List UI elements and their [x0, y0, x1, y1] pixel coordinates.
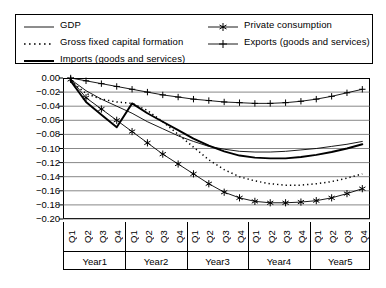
x-axis-quarter-cell: Q1 — [248, 222, 263, 252]
legend-item-exports-goods-and-services[interactable]: Exports (goods and services) — [206, 34, 370, 49]
year-divider — [310, 222, 311, 252]
legend-column-right: Private consumptionExports (goods and se… — [206, 15, 370, 49]
x-axis-year-band: Year1Year2Year3Year4Year5 — [63, 252, 370, 270]
plus-marker-icon — [344, 90, 350, 96]
series-line — [71, 81, 363, 185]
x-axis-quarter-cell: Q4 — [233, 222, 248, 252]
x-axis-quarter-label: Q4 — [235, 230, 246, 243]
x-axis-quarter-label: Q2 — [266, 230, 277, 243]
x-axis-quarter-label: Q2 — [82, 230, 93, 243]
series-gdp — [71, 79, 363, 152]
x-axis-quarter-cell: Q1 — [64, 222, 79, 252]
x-axis-quarter-cell: Q1 — [125, 222, 140, 252]
x-axis-quarter-label: Q4 — [296, 230, 307, 243]
legend-label: Gross fixed capital formation — [56, 36, 183, 48]
x-axis-quarter-label: Q4 — [174, 230, 185, 243]
x-axis-quarter-label: Q1 — [66, 230, 77, 243]
plus-marker-icon — [190, 96, 196, 102]
x-axis-quarter-label: Q3 — [97, 230, 108, 243]
x-axis-quarter-label: Q1 — [312, 230, 323, 243]
year-divider — [125, 222, 126, 252]
asterisk-marker-icon — [221, 189, 227, 196]
y-axis-tick-label: −0.04 — [2, 101, 60, 111]
year-divider — [187, 222, 188, 252]
x-axis-quarter-cell: Q4 — [294, 222, 309, 252]
y-axis-tick-label: −0.18 — [2, 200, 60, 210]
x-axis-quarter-label: Q3 — [220, 230, 231, 243]
asterisk-marker-icon — [206, 180, 212, 187]
asterisk-marker-icon — [359, 185, 365, 192]
y-axis-tick-label: −0.14 — [2, 172, 60, 182]
x-axis-year-label: Year2 — [125, 252, 186, 270]
plus-marker-icon — [160, 92, 166, 98]
y-axis-tick-label: −0.12 — [2, 158, 60, 168]
x-axis-quarter-label: Q1 — [250, 230, 261, 243]
x-axis-year-label: Year5 — [310, 252, 371, 270]
plus-marker-icon — [267, 100, 273, 106]
x-axis-quarter-label: Q1 — [189, 230, 200, 243]
x-axis-year-label: Year4 — [248, 252, 309, 270]
legend-swatch-asterisk-marker-icon — [206, 19, 240, 31]
x-axis-quarter-label: Q3 — [158, 230, 169, 243]
x-axis-quarter-label: Q2 — [143, 230, 154, 243]
x-axis-quarter-cell: Q3 — [279, 222, 294, 252]
x-axis-quarter-cell: Q4 — [171, 222, 186, 252]
x-axis-quarter-cell: Q3 — [340, 222, 355, 252]
asterisk-marker-icon — [144, 139, 150, 146]
plus-marker-icon — [221, 99, 227, 105]
x-axis-quarter-cell: Q3 — [218, 222, 233, 252]
asterisk-marker-icon — [236, 194, 242, 201]
series-line — [71, 79, 363, 152]
y-axis-tick-label: −0.16 — [2, 186, 60, 196]
year-divider — [248, 222, 249, 252]
asterisk-marker-icon — [175, 160, 181, 167]
y-axis-labels: 0.00−0.02−0.04−0.06−0.08−0.10−0.12−0.14−… — [0, 0, 60, 288]
x-axis-quarter-label: Q4 — [358, 230, 369, 243]
chart-page: GDPGross fixed capital formationImports … — [0, 0, 386, 288]
plus-marker-icon — [313, 96, 319, 102]
x-axis-quarter-label: Q4 — [112, 230, 123, 243]
x-axis-quarter-label: Q3 — [342, 230, 353, 243]
plus-marker-icon — [252, 100, 258, 106]
series-line — [71, 79, 363, 202]
y-axis-tick-label: −0.08 — [2, 129, 60, 139]
x-axis-quarter-label: Q3 — [281, 230, 292, 243]
asterisk-marker-icon — [160, 151, 166, 158]
plus-marker-icon — [298, 98, 304, 104]
chart-legend: GDPGross fixed capital formationImports … — [15, 14, 373, 64]
plus-marker-icon — [83, 78, 89, 84]
x-axis-quarter-cell: Q1 — [310, 222, 325, 252]
plus-marker-icon — [206, 97, 212, 103]
x-axis-quarter-cell: Q2 — [325, 222, 340, 252]
series-line — [71, 81, 363, 159]
x-axis-year-label: Year1 — [64, 252, 125, 270]
x-axis-quarter-cell: Q2 — [202, 222, 217, 252]
x-axis-quarter-band: Q1Q2Q3Q4Q1Q2Q3Q4Q1Q2Q3Q4Q1Q2Q3Q4Q1Q2Q3Q4 — [63, 222, 370, 252]
legend-label: Private consumption — [240, 19, 332, 31]
plus-marker-icon — [175, 94, 181, 100]
series-gross-fixed-capital-formation — [71, 81, 363, 185]
x-axis-quarter-label: Q2 — [204, 230, 215, 243]
x-axis-quarter-cell: Q4 — [110, 222, 125, 252]
x-axis-quarter-cell: Q2 — [264, 222, 279, 252]
x-axis-quarter-cell: Q4 — [356, 222, 371, 252]
plus-marker-icon — [328, 93, 334, 99]
series-private-consumption — [68, 76, 366, 207]
x-axis-quarter-cell: Q3 — [95, 222, 110, 252]
plus-marker-icon — [114, 83, 120, 89]
x-axis-quarter-cell: Q2 — [79, 222, 94, 252]
x-axis-year-label: Year3 — [187, 252, 248, 270]
x-axis-quarter-label: Q1 — [128, 230, 139, 243]
plus-marker-icon — [282, 99, 288, 105]
x-axis-quarter-cell: Q2 — [141, 222, 156, 252]
x-axis-quarter-cell: Q3 — [156, 222, 171, 252]
plus-marker-icon — [144, 89, 150, 95]
x-axis-quarter-label: Q2 — [327, 230, 338, 243]
chart-plot — [63, 78, 370, 219]
plus-marker-icon — [98, 80, 104, 86]
plus-marker-icon — [359, 86, 365, 92]
series-imports-goods-and-services — [71, 81, 363, 159]
plus-marker-icon — [129, 86, 135, 92]
plus-marker-icon — [236, 99, 242, 105]
legend-item-private-consumption[interactable]: Private consumption — [206, 17, 370, 32]
